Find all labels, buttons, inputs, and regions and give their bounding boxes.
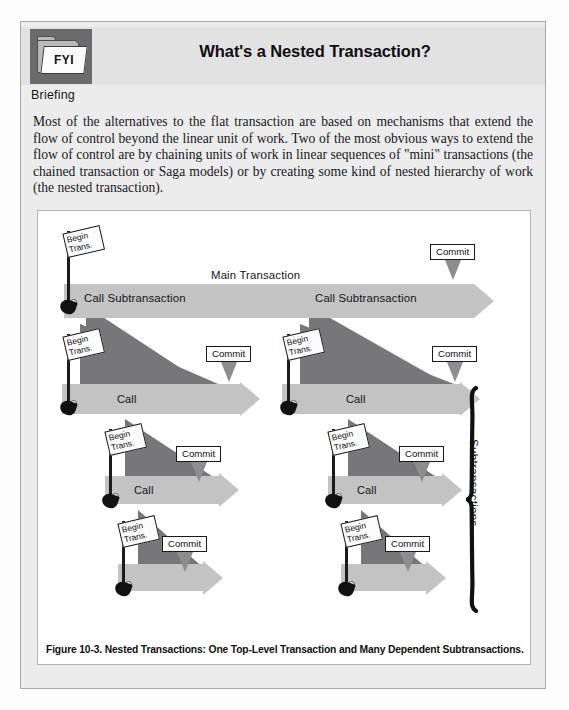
page-title: What's a Nested Transaction? (100, 42, 530, 61)
section-label-briefing: Briefing (31, 88, 75, 102)
document-page: FYI What's a Nested Transaction? Briefin… (0, 0, 569, 710)
commit-marker: Commit (385, 536, 430, 552)
level-3-right-subtransaction: Begin Trans. Commit (38, 211, 530, 623)
figure-caption: Figure 10-3. Nested Transactions: One To… (46, 644, 524, 655)
figure-canvas: Begin Trans. Commit Main Transaction Cal… (38, 211, 530, 623)
fyi-label: FYI (54, 53, 74, 67)
folder-front-shape: FYI (40, 46, 87, 74)
arrow-head (426, 561, 446, 595)
commit-arrow (400, 552, 416, 572)
fyi-folder-icon: FYI (30, 29, 92, 84)
figure-container: Begin Trans. Commit Main Transaction Cal… (37, 210, 531, 665)
subtransactions-label: Subtransactions (468, 439, 481, 527)
body-paragraph: Most of the alternatives to the flat tra… (33, 114, 533, 197)
commit-box: Commit (385, 536, 430, 552)
begin-trans-flag: Begin Trans. (340, 521, 388, 591)
